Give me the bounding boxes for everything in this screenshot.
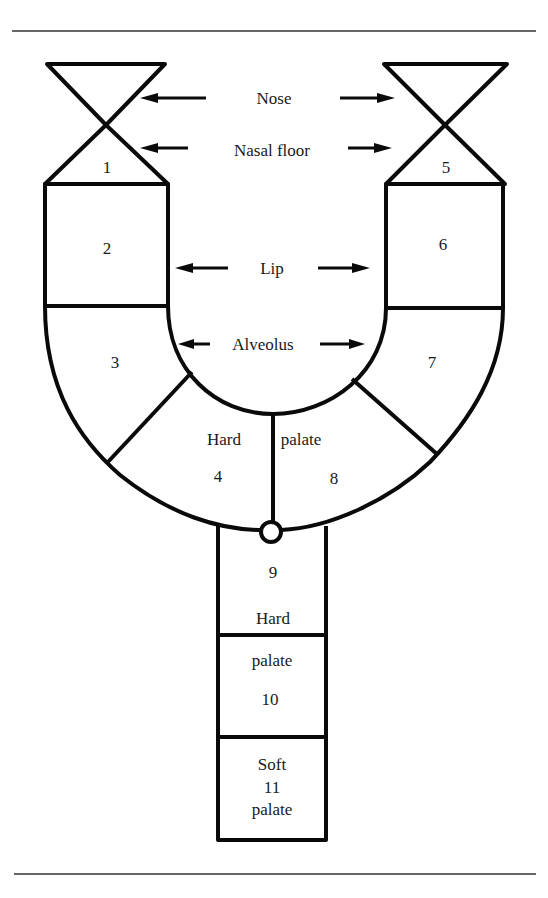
label-nose: Nose <box>257 89 292 108</box>
segment-11: 11 <box>264 778 280 797</box>
label-hard-left: Hard <box>207 430 241 449</box>
segment-9: 9 <box>269 563 278 582</box>
label-lip: Lip <box>260 259 284 278</box>
segment-8: 8 <box>330 469 339 488</box>
incisive-foramen <box>261 522 281 542</box>
divider-3-4 <box>107 372 192 463</box>
divider-7-8 <box>352 379 438 455</box>
label-palate-right: palate <box>281 430 322 449</box>
segment-5: 5 <box>442 158 451 177</box>
label-soft-palate: palate <box>252 800 293 819</box>
label-soft: Soft <box>258 755 287 774</box>
label-palate-lower: palate <box>252 651 293 670</box>
label-hard-lower: Hard <box>256 609 290 628</box>
inner-arch <box>168 306 386 414</box>
label-nasal-floor: Nasal floor <box>234 141 310 160</box>
segment-2: 2 <box>103 239 112 258</box>
segment-3: 3 <box>111 353 120 372</box>
segment-1: 1 <box>103 158 112 177</box>
arrows <box>140 93 395 349</box>
segment-10: 10 <box>262 690 279 709</box>
segment-6: 6 <box>439 235 448 254</box>
label-alveolus: Alveolus <box>232 335 293 354</box>
segment-4: 4 <box>214 467 223 486</box>
cleft-classification-diagram: Nose Nasal floor Lip Alveolus Hard palat… <box>0 0 548 898</box>
segment-7: 7 <box>428 353 437 372</box>
